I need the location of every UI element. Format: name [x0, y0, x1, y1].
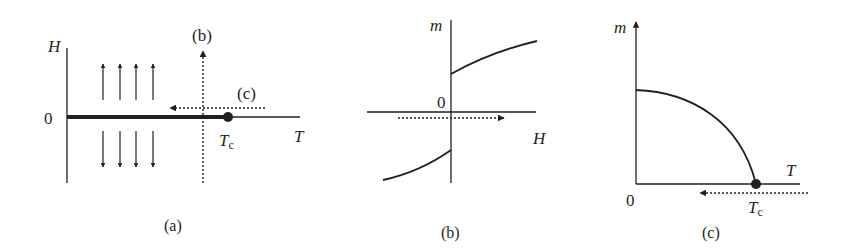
spin-down-arrows [103, 131, 153, 167]
h-axis-label: H [47, 37, 62, 56]
h-axis-label: H [532, 129, 547, 148]
tc-label: Tc [748, 198, 763, 219]
critical-point-dot [223, 112, 233, 122]
upper-magnetization-curve [451, 41, 537, 74]
t-axis-label: T [786, 161, 797, 180]
origin-label: 0 [626, 191, 635, 210]
panel-a: H 0 T Tc (b) (c) (a) [44, 26, 305, 235]
path-c-label: (c) [237, 84, 256, 103]
m-axis-label: m [614, 18, 626, 37]
critical-point-dot [751, 179, 761, 189]
spontaneous-magnetization-curve [636, 90, 756, 184]
t-axis-label: T [294, 127, 305, 146]
panel-c: m T 0 Tc (c) [614, 18, 808, 242]
caption-c: (c) [702, 224, 720, 242]
origin-label: 0 [437, 93, 446, 112]
path-b-label: (b) [192, 26, 212, 45]
m-axis-label: m [430, 16, 442, 35]
lower-magnetization-curve [383, 150, 451, 180]
caption-b: (b) [441, 224, 460, 242]
origin-label: 0 [44, 109, 53, 128]
panel-b: m 0 H (b) [367, 16, 547, 242]
tc-label: Tc [219, 131, 234, 152]
spin-up-arrows [103, 64, 153, 100]
caption-a: (a) [164, 217, 182, 235]
phase-diagram-figure: H 0 T Tc (b) (c) (a) m 0 H (b) m T 0 Tc … [0, 0, 845, 252]
